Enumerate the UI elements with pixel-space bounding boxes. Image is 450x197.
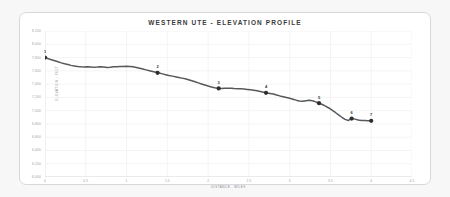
waypoint-label: 3 bbox=[218, 80, 220, 85]
x-axis-title: DISTANCE - MILES bbox=[45, 185, 412, 189]
x-axis-tick-label: 3 bbox=[289, 179, 291, 183]
y-axis-tick-label: 6,600 bbox=[32, 135, 43, 139]
waypoint-dot bbox=[217, 86, 221, 90]
waypoint-label: 5 bbox=[318, 95, 320, 100]
horizontal-gridlines bbox=[45, 31, 412, 177]
waypoint-label: 6 bbox=[351, 110, 353, 115]
waypoint-markers bbox=[45, 55, 373, 123]
waypoint-label: 4 bbox=[265, 84, 267, 89]
x-axis-tick-label: 0 bbox=[44, 179, 46, 183]
x-axis-tick-label: 4 bbox=[370, 179, 372, 183]
x-axis-tick-label: 2.5 bbox=[246, 179, 251, 183]
vertical-gridlines bbox=[45, 31, 412, 177]
waypoint-dot bbox=[350, 117, 354, 121]
chart-title: WESTERN UTE - ELEVATION PROFILE bbox=[20, 19, 430, 26]
waypoint-dot bbox=[264, 91, 268, 95]
x-axis-tick-label: 1.5 bbox=[165, 179, 170, 183]
waypoint-label: 2 bbox=[156, 64, 158, 69]
x-axis-tick-label: 4.5 bbox=[410, 179, 415, 183]
x-axis-tick-label: 3.5 bbox=[328, 179, 333, 183]
waypoint-dot bbox=[155, 71, 159, 75]
y-axis-tick-label: 7,800 bbox=[32, 56, 43, 60]
y-axis-tick-label: 6,000 bbox=[32, 175, 43, 179]
elevation-line-chart bbox=[45, 31, 412, 177]
y-axis-tick-label: 6,200 bbox=[32, 162, 43, 166]
x-axis-tick-label: 2 bbox=[207, 179, 209, 183]
waypoint-label: 7 bbox=[370, 112, 372, 117]
waypoint-label: 1 bbox=[44, 49, 46, 54]
chart-card: WESTERN UTE - ELEVATION PROFILE ELEVATIO… bbox=[19, 12, 431, 185]
y-axis-tick-label: 8,200 bbox=[32, 29, 43, 33]
waypoint-dot bbox=[317, 101, 321, 105]
y-axis-tick-label: 7,400 bbox=[32, 82, 43, 86]
y-axis-tick-label: 8,000 bbox=[32, 42, 43, 46]
waypoint-dot bbox=[369, 119, 373, 123]
y-axis-tick-label: 6,400 bbox=[32, 148, 43, 152]
x-axis-tick-label: 1 bbox=[126, 179, 128, 183]
waypoint-dot bbox=[45, 55, 47, 59]
y-axis-tick-label: 7,000 bbox=[32, 109, 43, 113]
y-axis-tick-label: 7,200 bbox=[32, 95, 43, 99]
x-axis-tick-label: 0.5 bbox=[83, 179, 88, 183]
y-axis-tick-label: 7,600 bbox=[32, 69, 43, 73]
plot-area: ELEVATION - FEET DISTANCE - MILES 6,0006… bbox=[45, 31, 412, 177]
y-axis-tick-label: 6,800 bbox=[32, 122, 43, 126]
